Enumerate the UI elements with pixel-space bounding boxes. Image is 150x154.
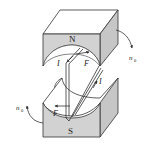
rotation-label-right-sub: 0 (134, 58, 137, 63)
dc-motor-diagram: N S I F I F n 0 n 0 (0, 0, 150, 154)
rotation-label-left: n (16, 104, 20, 112)
rotation-arrow-left (27, 106, 43, 123)
south-pole-label: S (68, 126, 73, 136)
current-label-right: I (98, 77, 102, 86)
south-magnet: S (43, 78, 118, 137)
rotation-label-right: n (129, 54, 133, 62)
current-label-top: I (56, 59, 60, 68)
force-label-top: F (83, 59, 89, 68)
north-pole-label: N (69, 34, 76, 44)
north-magnet: N (43, 10, 118, 66)
force-label-bottom: F (52, 109, 58, 118)
south-magnet-side-face (100, 78, 118, 137)
rotation-label-left-sub: 0 (21, 108, 24, 113)
